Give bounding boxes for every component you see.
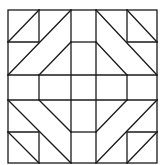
corner-diag-br <box>127 132 157 163</box>
corner-diag-bl <box>8 132 39 163</box>
outer-border <box>8 10 157 163</box>
corner-diag-tr <box>127 10 157 42</box>
octagon-diag-tl <box>39 42 71 75</box>
corner-diag-tl <box>8 10 39 42</box>
octagon-diag-tr <box>96 42 127 75</box>
octagon-diag-bl <box>39 100 71 132</box>
quilt-block-diagram <box>0 0 160 165</box>
octagon-diag-br <box>96 100 127 132</box>
